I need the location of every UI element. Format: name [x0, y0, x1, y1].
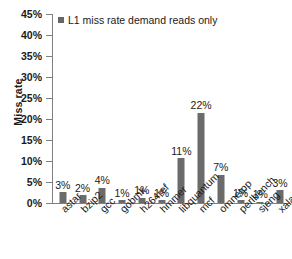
y-axis-tick-label: 0%: [2, 198, 42, 209]
bar-group: 1%: [133, 14, 151, 203]
y-axis-tick-label: 25%: [2, 93, 42, 104]
bar-group: 1%: [113, 14, 131, 203]
y-axis-tick-label: 10%: [2, 156, 42, 167]
bar-group: 1%: [153, 14, 171, 203]
y-axis-tick: [46, 203, 52, 204]
y-axis-tick: [46, 14, 52, 15]
y-axis-tick-label: 35%: [2, 51, 42, 62]
bar-value-label: 7%: [213, 162, 228, 173]
y-axis-tick: [46, 119, 52, 120]
bar-group: 11%: [172, 14, 190, 203]
y-axis-tick-label: 30%: [2, 72, 42, 83]
bar-group: 3%: [271, 14, 289, 203]
bar-value-label: 3%: [55, 180, 70, 191]
bar-group: 4%: [93, 14, 111, 203]
y-axis-tick: [46, 161, 52, 162]
bar-value-label: 4%: [95, 175, 110, 186]
bar-group: 1%: [232, 14, 250, 203]
y-axis-tick: [46, 56, 52, 57]
y-axis-tick: [46, 182, 52, 183]
y-axis-tick-label: 40%: [2, 30, 42, 41]
y-axis-tick: [46, 77, 52, 78]
y-axis-tick: [46, 140, 52, 141]
bar-value-label: 22%: [191, 100, 212, 111]
bar-group: 2%: [74, 14, 92, 203]
x-axis-labels: astarbzip2gccgobmkh264refhmmerlibquantum…: [53, 205, 290, 259]
y-axis-tick-label: 45%: [2, 9, 42, 20]
bars-layer: 3%2%4%1%1%1%11%22%7%1%1%3%: [53, 14, 290, 203]
y-axis-tick: [46, 35, 52, 36]
y-axis-tick-label: 5%: [2, 177, 42, 188]
bar-group: 3%: [54, 14, 72, 203]
bar-value-label: 11%: [171, 146, 191, 157]
y-axis-tick-label: 20%: [2, 114, 42, 125]
bar-chart: Miss rate 0%5%10%15%20%25%30%35%40%45% L…: [0, 0, 292, 259]
y-axis-tick: [46, 98, 52, 99]
y-axis-tick-label: 15%: [2, 135, 42, 146]
